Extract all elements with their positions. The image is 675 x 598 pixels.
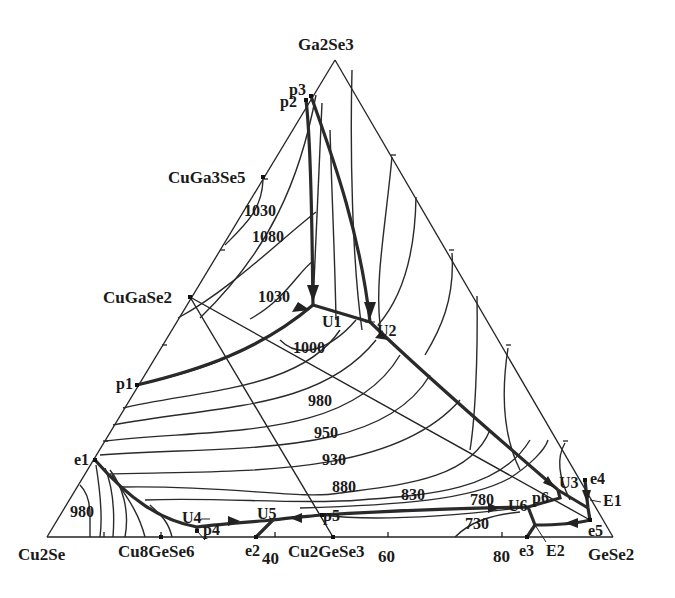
isotherm-label-1000: 1000: [293, 339, 325, 356]
tick-label-60: 60: [378, 547, 395, 566]
corner-label-gese2: GeSe2: [588, 545, 634, 564]
point-label-e3: e3: [519, 542, 534, 559]
isotherm-label-830: 830: [401, 486, 425, 503]
point-label-p1: p1: [116, 375, 133, 393]
isotherm-label-730: 730: [465, 515, 489, 532]
point-label-E2: E2: [546, 542, 565, 559]
isotherm-label-780: 780: [470, 491, 494, 508]
corner-label-ga2se3: Ga2Se3: [298, 35, 354, 54]
corner-label-cu2se: Cu2Se: [18, 545, 66, 564]
tick-label-80: 80: [493, 547, 510, 566]
point-label-E1: E1: [603, 492, 622, 509]
compound-label-cu8gese6: Cu8GeSe6: [118, 542, 195, 561]
compound-label-cugase2: CuGaSe2: [103, 288, 172, 307]
point-label-p6: p6: [532, 489, 549, 507]
point-label-e5: e5: [588, 522, 603, 539]
isotherm-label-880: 880: [332, 478, 356, 495]
isotherm-label-1080: 1080: [252, 228, 284, 245]
point-label-e4: e4: [590, 470, 605, 487]
point-label-U3: U3: [559, 474, 579, 491]
point-label-U2: U2: [377, 322, 397, 339]
compound-label-cu2gese3: Cu2GeSe3: [288, 542, 365, 561]
point-label-U1: U1: [322, 313, 342, 330]
isotherm-label-950: 950: [314, 424, 338, 441]
tick-label-40: 40: [262, 549, 279, 568]
compound-label-cuga3se5: CuGa3Se5: [168, 168, 245, 187]
isotherm-label-980: 980: [308, 392, 332, 409]
monovariant-curves: [95, 96, 590, 537]
point-label-U4: U4: [182, 509, 202, 526]
point-label-U5: U5: [257, 505, 277, 522]
isotherm-label-930: 930: [322, 451, 346, 468]
isotherm-label-1030: 1030: [258, 288, 290, 305]
point-label-e2: e2: [245, 542, 260, 559]
point-label-U6: U6: [508, 497, 528, 514]
isotherm-label-1030: 1030: [244, 202, 276, 219]
point-label-p5: p5: [323, 507, 340, 525]
point-label-p4: p4: [203, 521, 220, 539]
isotherm-label-980: 980: [70, 503, 94, 520]
ternary-phase-diagram: Ga2Se3 Cu2Se GeSe2 CuGa3Se5 CuGaSe2 Cu8G…: [0, 0, 675, 598]
point-label-e1: e1: [74, 451, 89, 468]
point-label-p3: p3: [289, 81, 306, 99]
